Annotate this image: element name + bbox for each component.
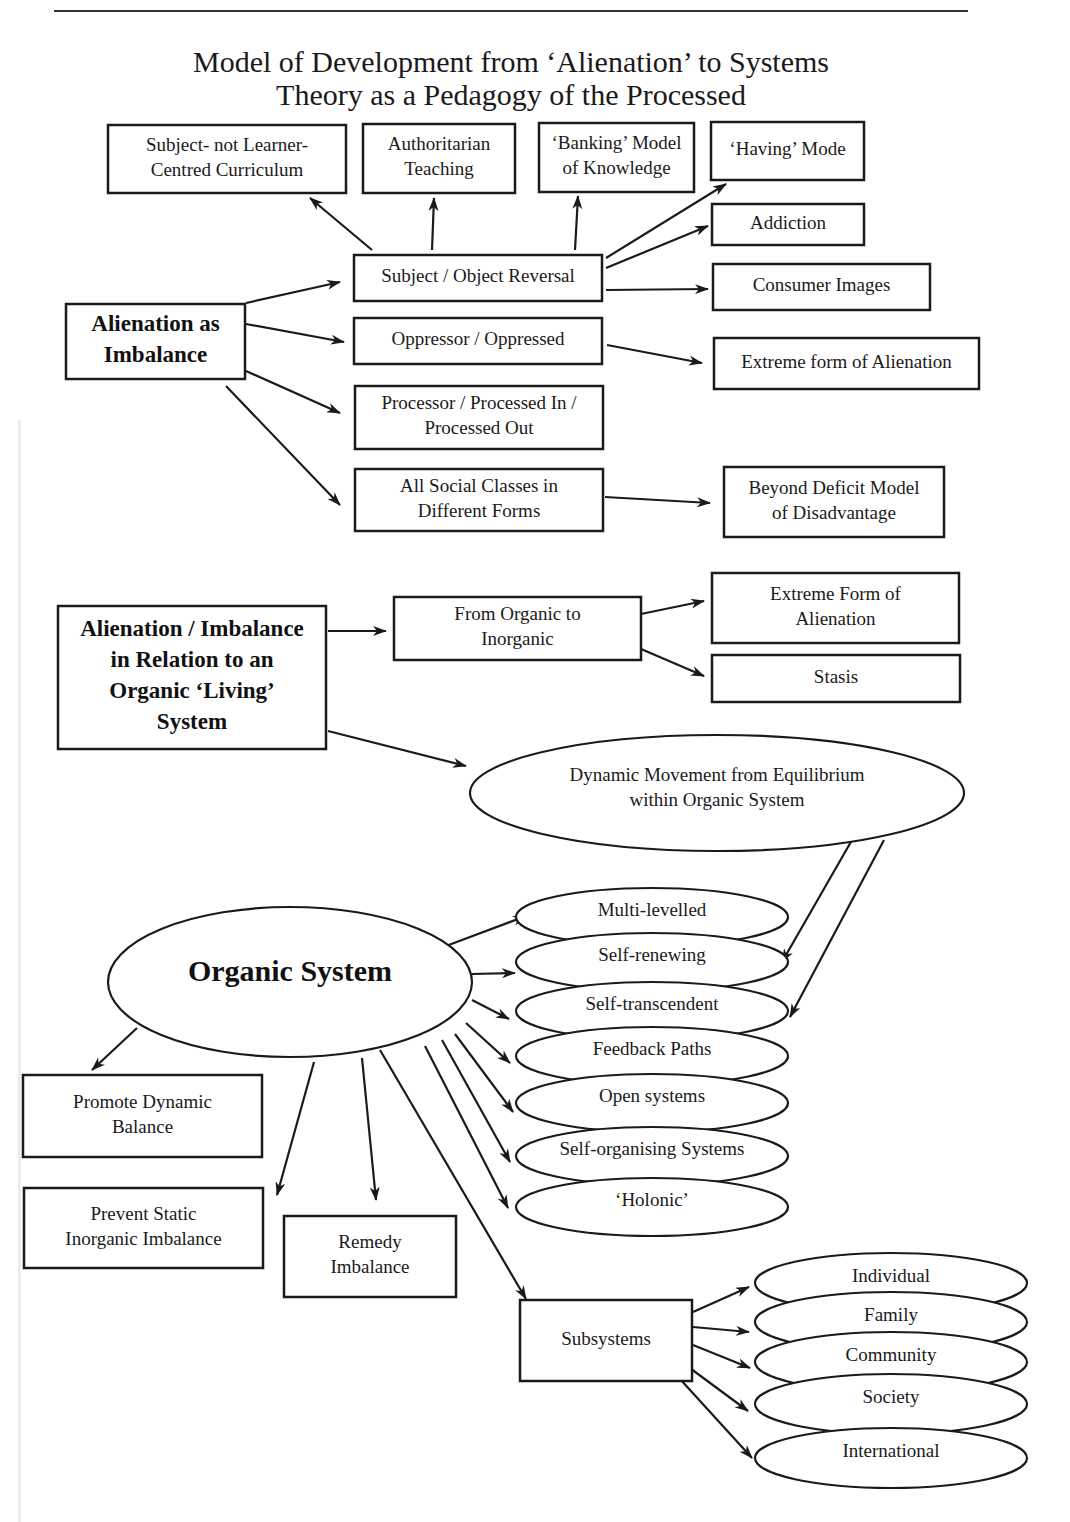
node-organic-system-label: Organic System: [188, 954, 392, 987]
node-authoritarian-label: Teaching: [404, 158, 474, 179]
node-banking-label: of Knowledge: [562, 157, 670, 178]
node-consumer-label: Consumer Images: [753, 274, 891, 295]
arrow: [680, 1379, 752, 1458]
concept-diagram: Model of Development from ‘Alienation’ t…: [0, 0, 1070, 1522]
node-prevent: Prevent StaticInorganic Imbalance: [24, 1188, 263, 1268]
arrow: [693, 1327, 749, 1332]
arrow: [607, 345, 702, 363]
node-beyond-label: of Disadvantage: [772, 502, 896, 523]
node-dynamic-label: within Organic System: [630, 789, 805, 810]
node-extreme2-label: Alienation: [795, 608, 876, 629]
arrow: [362, 1058, 376, 1200]
arrow: [641, 601, 704, 614]
node-alienation-organic-label: System: [157, 709, 227, 734]
node-beyond-label: Beyond Deficit Model: [749, 477, 920, 498]
property-ellipse: Self-organising Systems: [516, 1127, 788, 1185]
arrow: [246, 324, 344, 342]
node-processor: Processor / Processed In /Processed Out: [355, 386, 603, 449]
arrow: [246, 282, 340, 303]
node-subject-not-learner: Subject- not Learner-Centred Curriculum: [108, 125, 346, 193]
properties-stack: Multi-levelledSelf-renewingSelf-transcen…: [516, 888, 788, 1236]
arrow: [693, 1287, 749, 1312]
node-consumer: Consumer Images: [713, 264, 930, 310]
property-ellipse-label: ‘Holonic’: [615, 1189, 689, 1210]
arrow: [606, 184, 726, 258]
node-alienation-imbalance-label: Imbalance: [104, 342, 208, 367]
arrow: [472, 973, 515, 974]
arrow: [693, 1345, 750, 1368]
subsystem-ellipse-label: Society: [863, 1386, 920, 1407]
arrow: [605, 497, 710, 503]
property-ellipse-label: Feedback Paths: [593, 1038, 712, 1059]
node-promote: Promote DynamicBalance: [23, 1075, 262, 1157]
node-subject-not-learner-label: Subject- not Learner-: [146, 134, 308, 155]
node-subject-not-learner-label: Centred Curriculum: [151, 159, 304, 180]
node-oppressor: Oppressor / Oppressed: [354, 318, 602, 364]
arrow: [575, 196, 578, 250]
arrow: [446, 916, 526, 946]
node-oppressor-label: Oppressor / Oppressed: [391, 328, 565, 349]
property-ellipse-label: Self-organising Systems: [560, 1138, 745, 1159]
subsystem-ellipse: Society: [755, 1374, 1027, 1434]
node-remedy: RemedyImbalance: [284, 1216, 456, 1297]
node-having-label: ‘Having’ Mode: [729, 138, 845, 159]
node-banking: ‘Banking’ Modelof Knowledge: [539, 123, 694, 192]
arrow: [328, 731, 466, 766]
node-processor-label: Processor / Processed In /: [381, 392, 577, 413]
node-subsystems: Subsystems: [520, 1300, 692, 1381]
node-beyond: Beyond Deficit Modelof Disadvantage: [724, 467, 944, 537]
node-extreme1-label: Extreme form of Alienation: [741, 351, 952, 372]
subsystem-ellipse: International: [755, 1428, 1027, 1488]
node-alienation-imbalance-label: Alienation as: [91, 311, 219, 336]
node-alienation-imbalance: Alienation asImbalance: [66, 304, 245, 379]
node-authoritarian: AuthoritarianTeaching: [363, 124, 515, 193]
arrow: [226, 386, 340, 505]
node-alienation-organic-label: Organic ‘Living’: [109, 678, 274, 703]
node-subj-obj-label: Subject / Object Reversal: [381, 265, 575, 286]
subsystems-stack: IndividualFamilyCommunitySocietyInternat…: [755, 1253, 1027, 1488]
node-organic-to-inorganic-label: From Organic to: [454, 603, 580, 624]
node-stasis-label: Stasis: [814, 666, 858, 687]
property-ellipse: Open systems: [516, 1074, 788, 1132]
node-organic-system: Organic System: [108, 907, 472, 1057]
node-subj-obj: Subject / Object Reversal: [354, 255, 602, 301]
node-social: All Social Classes inDifferent Forms: [355, 469, 603, 531]
node-addiction: Addiction: [712, 204, 864, 245]
node-authoritarian-label: Authoritarian: [388, 133, 491, 154]
node-stasis: Stasis: [712, 655, 960, 702]
node-extreme2: Extreme Form ofAlienation: [712, 573, 959, 643]
arrow: [455, 1034, 513, 1112]
arrow: [782, 840, 852, 962]
node-promote-label: Promote Dynamic: [73, 1091, 212, 1112]
node-prevent-label: Inorganic Imbalance: [65, 1228, 221, 1249]
node-alienation-organic-label: in Relation to an: [111, 647, 274, 672]
node-alienation-organic-label: Alienation / Imbalance: [80, 616, 304, 641]
node-dynamic-label: Dynamic Movement from Equilibrium: [570, 764, 865, 785]
title-line-1: Model of Development from ‘Alienation’ t…: [193, 45, 829, 78]
arrow: [92, 1028, 137, 1070]
node-banking-label: ‘Banking’ Model: [552, 132, 682, 153]
subsystem-ellipse-label: Individual: [852, 1265, 930, 1286]
arrow: [310, 198, 372, 250]
node-promote-label: Balance: [112, 1116, 173, 1137]
arrow: [432, 198, 434, 250]
subsystem-ellipse-label: International: [842, 1440, 939, 1461]
property-ellipse-label: Multi-levelled: [598, 899, 707, 920]
node-organic-to-inorganic: From Organic toInorganic: [394, 597, 641, 660]
node-social-label: All Social Classes in: [400, 475, 558, 496]
subsystem-ellipse-label: Family: [864, 1304, 918, 1325]
arrow: [425, 1046, 508, 1208]
property-ellipse: ‘Holonic’: [516, 1178, 788, 1236]
title-line-2: Theory as a Pedagogy of the Processed: [276, 78, 746, 111]
arrow: [606, 226, 708, 268]
node-dynamic: Dynamic Movement from Equilibriumwithin …: [470, 735, 964, 851]
arrow: [472, 1000, 509, 1019]
node-subsystems-label: Subsystems: [561, 1328, 651, 1349]
property-ellipse-label: Self-transcendent: [586, 993, 720, 1014]
node-alienation-organic: Alienation / Imbalancein Relation to anO…: [58, 606, 326, 749]
node-prevent-label: Prevent Static: [90, 1203, 196, 1224]
node-social-label: Different Forms: [418, 500, 541, 521]
node-processor-label: Processed Out: [424, 417, 534, 438]
node-remedy-label: Imbalance: [330, 1256, 409, 1277]
node-remedy-label: Remedy: [338, 1231, 402, 1252]
